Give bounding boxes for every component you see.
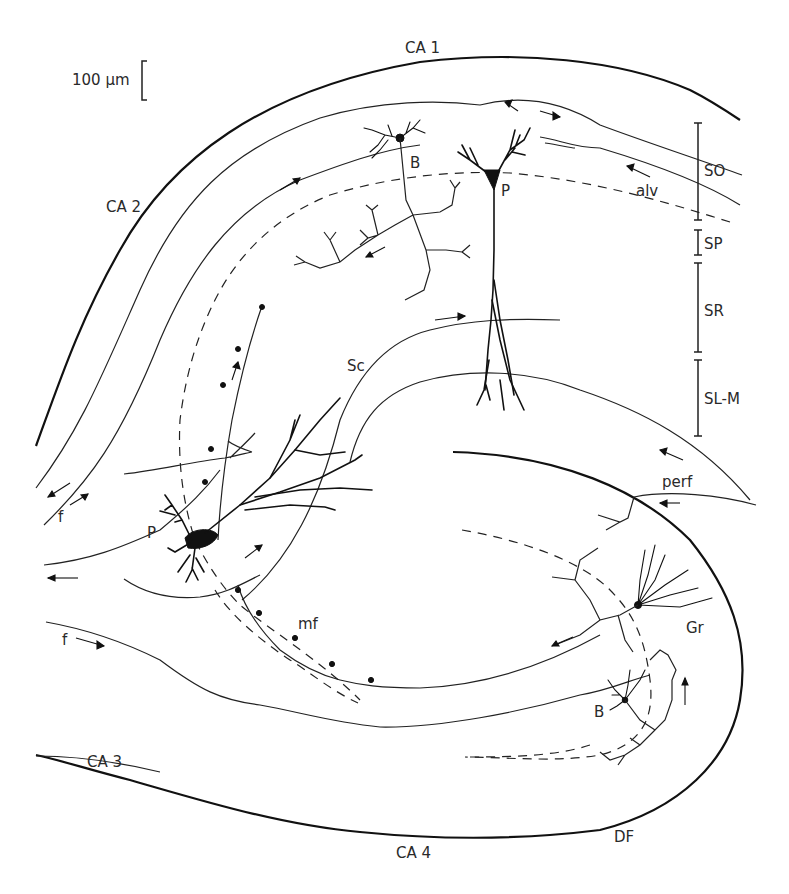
scale-bar-label: 100 µm xyxy=(72,71,130,89)
schaffer-collateral-line xyxy=(242,319,560,600)
mossy-fiber-dash xyxy=(215,590,358,703)
outer-boundary-ca1-ca2 xyxy=(36,57,740,446)
cell-label-ca1-b: B xyxy=(410,154,420,172)
region-label-df: DF xyxy=(614,828,634,846)
alveus-inner-line xyxy=(36,100,742,488)
region-label-ca3: CA 3 xyxy=(87,753,122,771)
pathway-label-perf: perf xyxy=(662,473,693,491)
layer-label-sr: SR xyxy=(704,302,724,320)
pathway-label-mf: mf xyxy=(298,615,319,633)
flow-arrows xyxy=(48,100,688,705)
layer-label-slm: SL-M xyxy=(704,390,740,408)
hippocampus-circuit-diagram: 100 µm SO SP SR SL-M CA 1 CA 2 CA 3 CA 4… xyxy=(0,0,789,894)
pathway-label-f-upper: f xyxy=(58,508,64,526)
ca3-bottom-loop xyxy=(124,575,260,598)
oriens-line xyxy=(44,145,420,525)
ca3-lower-boundary xyxy=(44,470,220,565)
perforant-path-branch xyxy=(598,497,634,530)
ca1-pyramidal-cell xyxy=(458,128,530,410)
cell-label-ca1-p: P xyxy=(501,182,510,200)
pathway-label-f-lower: f xyxy=(62,631,68,649)
layer-label-so: SO xyxy=(704,162,725,180)
ca3-outer-line xyxy=(46,622,650,727)
pathway-label-sc: Sc xyxy=(347,357,365,375)
cell-label-ca3-p: P xyxy=(147,524,156,542)
ca1-basket-cell xyxy=(294,120,470,300)
ca3-axon-branch xyxy=(124,433,255,474)
perforant-path-line xyxy=(634,494,756,505)
scale-bar xyxy=(142,61,147,100)
region-label-ca1: CA 1 xyxy=(405,39,440,57)
pathway-label-alv: alv xyxy=(636,182,658,200)
cell-label-gr: Gr xyxy=(686,619,705,637)
cell-label-dentate-b: B xyxy=(594,703,604,721)
collateral-boutons xyxy=(203,305,265,485)
dentate-outer-boundary xyxy=(36,452,743,838)
region-label-ca2: CA 2 xyxy=(106,198,141,216)
layer-label-sp: SP xyxy=(704,235,723,253)
layer-bars xyxy=(694,123,702,436)
region-label-ca4: CA 4 xyxy=(396,844,431,862)
ca3-pyramidal-cell xyxy=(160,398,372,582)
dentate-lower-dash xyxy=(470,745,590,757)
dentate-basket-cell xyxy=(600,650,676,765)
mossy-fiber-boutons xyxy=(235,587,373,682)
